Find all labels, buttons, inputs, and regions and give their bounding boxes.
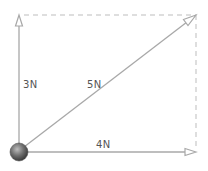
horizontal-force-label: 4N [96,140,110,150]
vertical-force-arrow [16,15,23,146]
vertical-force-label: 3N [23,80,37,90]
resultant-force-arrow [24,15,196,147]
resultant-force-label: 5N [87,80,101,90]
ball-object [10,143,28,161]
horizontal-force-arrow [26,149,196,156]
